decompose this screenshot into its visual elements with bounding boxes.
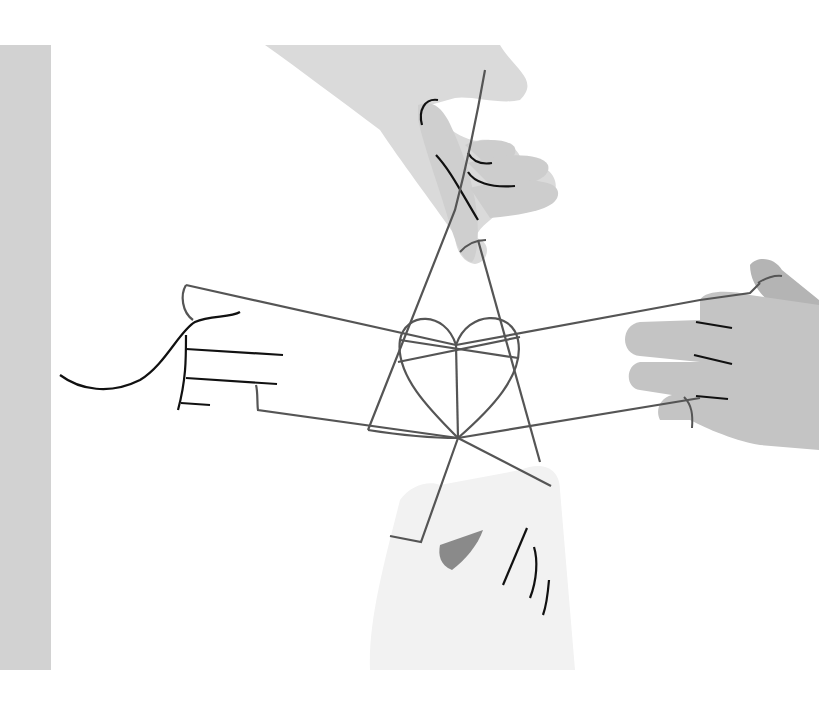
left-gray-strip [0, 45, 51, 670]
illustration-canvas: Hands weaving a string figure with a hea… [0, 0, 819, 706]
bottom-hand [370, 466, 575, 670]
top-hand [265, 45, 558, 264]
string-figure [183, 70, 760, 542]
right-hand [625, 259, 819, 450]
string-figure-illustration [0, 0, 819, 706]
left-hand-outline [60, 312, 283, 410]
